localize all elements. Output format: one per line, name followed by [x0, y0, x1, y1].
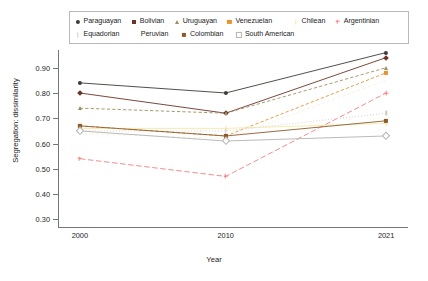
- legend-item-south-american[interactable]: South American: [235, 28, 294, 41]
- legend-item-label: Uruguayan: [180, 18, 217, 25]
- legend-item-chilean[interactable]: Chilean: [292, 15, 325, 28]
- open-diamond-marker-icon: [235, 31, 242, 38]
- tick-marker-icon: [292, 18, 299, 25]
- y-axis-tick: [53, 68, 58, 69]
- series-line-south-american: [80, 131, 386, 141]
- y-axis-tick-label: 0.60: [0, 139, 50, 148]
- y-axis-tick: [53, 118, 58, 119]
- data-point-paraguayan: [222, 89, 230, 97]
- y-axis-line: [58, 50, 59, 228]
- legend-item-label: Bolivian: [137, 18, 164, 25]
- y-axis-tick: [53, 219, 58, 220]
- y-axis-tick-label: 0.80: [0, 88, 50, 97]
- legend-item-label: Colombian: [187, 31, 223, 38]
- legend-item-uruguayan[interactable]: Uruguayan: [173, 15, 217, 28]
- data-point-argentinian: [382, 89, 390, 97]
- triangle-marker-icon: [173, 18, 180, 25]
- legend-item-label: South American: [242, 31, 294, 38]
- data-point-south-american: [222, 137, 230, 145]
- y-axis-tick-label: 0.50: [0, 164, 50, 173]
- legend-row-2: EquadorianPeruvianColombianSouth America…: [74, 28, 404, 41]
- data-point-argentinian: [222, 172, 230, 180]
- series-line-peruvian: [80, 80, 386, 138]
- square-marker-icon: [180, 31, 187, 38]
- data-point-colombian: [382, 117, 390, 125]
- x-axis-title: Year: [0, 255, 428, 264]
- y-axis-tick-label: 0.40: [0, 190, 50, 199]
- legend-item-label: Chilean: [299, 18, 325, 25]
- data-point-bolivian: [382, 54, 390, 62]
- series-line-bolivian: [80, 58, 386, 114]
- none-marker-icon: [131, 31, 138, 38]
- series-line-paraguayan: [80, 53, 386, 93]
- series-line-equadorian: [80, 113, 386, 131]
- data-point-uruguayan: [76, 104, 84, 112]
- legend-item-argentinian[interactable]: Argentinian: [334, 15, 379, 28]
- data-point-south-american: [382, 132, 390, 140]
- y-axis-tick: [53, 93, 58, 94]
- legend-item-equadorian[interactable]: Equadorian: [74, 28, 119, 41]
- data-point-south-american: [76, 127, 84, 135]
- x-axis-line: [58, 227, 408, 228]
- data-point-argentinian: [76, 155, 84, 163]
- series-line-chilean: [80, 123, 386, 128]
- legend-item-label: Argentinian: [341, 18, 379, 25]
- legend-row-1: ParaguayanBolivianUruguayanVenezuelanChi…: [74, 15, 404, 28]
- legend-item-peruvian[interactable]: Peruvian: [131, 28, 168, 41]
- legend-item-label: Paraguayan: [81, 18, 121, 25]
- series-line-venezuelan: [80, 73, 386, 136]
- segregation-dissimilarity-line-chart: ParaguayanBolivianUruguayanVenezuelanChi…: [0, 0, 428, 281]
- legend-item-paraguayan[interactable]: Paraguayan: [74, 15, 121, 28]
- series-line-colombian: [80, 121, 386, 136]
- y-axis-tick-label: 0.70: [0, 114, 50, 123]
- y-axis-tick-label: 0.30: [0, 215, 50, 224]
- legend-item-colombian[interactable]: Colombian: [180, 28, 223, 41]
- y-axis-tick-label: 0.90: [0, 63, 50, 72]
- y-axis-tick: [53, 194, 58, 195]
- circle-marker-icon: [74, 18, 81, 25]
- y-axis-tick: [53, 144, 58, 145]
- x-axis-tick-label: 2010: [217, 231, 233, 240]
- legend-item-label: Peruvian: [138, 31, 168, 38]
- data-point-venezuelan: [382, 69, 390, 77]
- legend-item-label: Equadorian: [81, 31, 119, 38]
- data-point-uruguayan: [222, 109, 230, 117]
- legend-item-bolivian[interactable]: Bolivian: [130, 15, 164, 28]
- legend-item-venezuelan[interactable]: Venezuelan: [226, 15, 272, 28]
- diamond-marker-icon: [130, 18, 137, 25]
- series-line-uruguayan: [80, 68, 386, 114]
- plus-marker-icon: [334, 18, 341, 25]
- x-axis-tick-label: 2021: [378, 231, 394, 240]
- data-point-paraguayan: [76, 79, 84, 87]
- y-axis-tick: [53, 169, 58, 170]
- x-axis-tick-label: 2000: [72, 231, 88, 240]
- y-axis-title: Segregation: dissimilarity: [11, 46, 20, 196]
- chart-legend: ParaguayanBolivianUruguayanVenezuelanChi…: [69, 11, 409, 44]
- tick-marker-icon: [74, 31, 81, 38]
- legend-item-label: Venezuelan: [233, 18, 272, 25]
- series-line-argentinian: [80, 93, 386, 176]
- square-marker-icon: [226, 18, 233, 25]
- data-point-bolivian: [76, 89, 84, 97]
